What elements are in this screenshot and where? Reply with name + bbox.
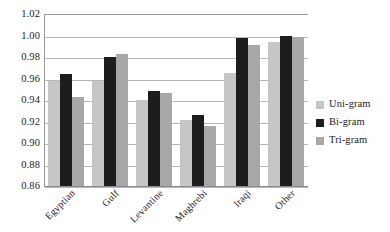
bar	[160, 93, 172, 186]
bar	[72, 97, 84, 186]
bar	[60, 74, 72, 186]
bar-group	[224, 14, 260, 186]
x-tick-label: Iraqi	[232, 188, 253, 209]
y-tick-label: 0.90	[21, 138, 40, 149]
bar	[192, 115, 204, 186]
bar	[180, 120, 192, 186]
bar	[224, 73, 236, 186]
y-tick-label: 1.02	[21, 9, 40, 20]
y-tick-label: 0.88	[21, 159, 40, 170]
bar	[248, 45, 260, 186]
legend-label: Bi-gram	[329, 117, 365, 128]
legend-label: Tri-gram	[329, 135, 367, 146]
bar	[92, 81, 104, 186]
x-tick-label: Maghrebi	[173, 188, 209, 224]
legend-item: Bi-gram	[316, 114, 390, 131]
y-tick-label: 0.86	[21, 181, 40, 192]
bar	[148, 91, 160, 186]
bar	[48, 81, 60, 186]
bar-chart: 1.021.000.980.960.940.920.900.880.86 Egy…	[0, 0, 390, 232]
bar-group	[268, 14, 304, 186]
bar-group	[92, 14, 128, 186]
bar	[104, 57, 116, 186]
bar-group	[180, 14, 216, 186]
bar	[236, 38, 248, 186]
legend-item: Uni-gram	[316, 96, 390, 113]
y-tick-label: 1.00	[21, 30, 40, 41]
bar-group	[48, 14, 84, 186]
legend-swatch-icon	[316, 101, 324, 109]
y-axis: 1.021.000.980.960.940.920.900.880.86	[0, 0, 44, 232]
bar	[204, 126, 216, 186]
y-tick-label: 0.92	[21, 116, 40, 127]
x-tick-label: Gulf	[100, 188, 121, 209]
x-tick-label: Levantine	[128, 188, 165, 225]
bar	[280, 36, 292, 187]
x-tick-label: Egyptian	[43, 188, 77, 222]
legend-item: Tri-gram	[316, 132, 390, 149]
legend-swatch-icon	[316, 137, 324, 145]
bar	[116, 54, 128, 186]
x-tick-label: Other	[273, 188, 297, 212]
legend: Uni-gramBi-gramTri-gram	[316, 96, 390, 150]
bar	[136, 100, 148, 186]
y-tick-label: 0.98	[21, 52, 40, 63]
bar	[292, 37, 304, 186]
y-tick-label: 0.94	[21, 95, 40, 106]
legend-swatch-icon	[316, 119, 324, 127]
y-tick-label: 0.96	[21, 73, 40, 84]
bar-group	[136, 14, 172, 186]
x-axis-labels: EgyptianGulfLevantineMaghrebiIraqiOther	[44, 186, 308, 232]
bar	[268, 42, 280, 186]
legend-label: Uni-gram	[329, 99, 371, 110]
